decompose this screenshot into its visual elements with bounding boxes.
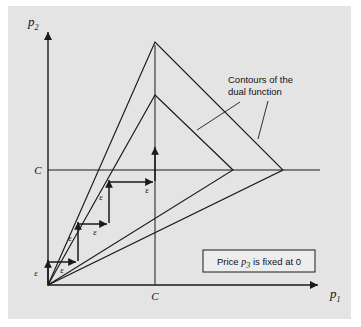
- epsilon-label-3: ε: [68, 233, 72, 243]
- contours-annotation-line2: dual function: [228, 86, 282, 97]
- epsilon-label-4: ε: [93, 227, 97, 237]
- contours-annotation-group: Contours of the dual function: [197, 74, 293, 139]
- figure-root: ε ε ε ε ε ε p2 p1 C C Contours of the du…: [0, 0, 361, 327]
- epsilon-label-1: ε: [34, 268, 38, 278]
- x-axis-label: p1: [329, 286, 341, 304]
- y-axis-tick-label-C: C: [34, 164, 42, 176]
- staircase-group: [48, 147, 155, 284]
- contours-annotation-line1: Contours of the: [228, 74, 293, 85]
- epsilon-label-2: ε: [60, 265, 64, 275]
- contours-leader-line-outer: [258, 101, 268, 139]
- fixed-price-box-group: Price p3 is fixed at 0: [203, 250, 315, 272]
- epsilon-label-5: ε: [99, 192, 103, 202]
- y-axis-label: p2: [27, 14, 39, 32]
- dual-function-contour-diagram: ε ε ε ε ε ε p2 p1 C C Contours of the du…: [0, 0, 361, 327]
- epsilon-label-6: ε: [145, 185, 149, 195]
- x-axis-tick-label-C: C: [151, 290, 159, 302]
